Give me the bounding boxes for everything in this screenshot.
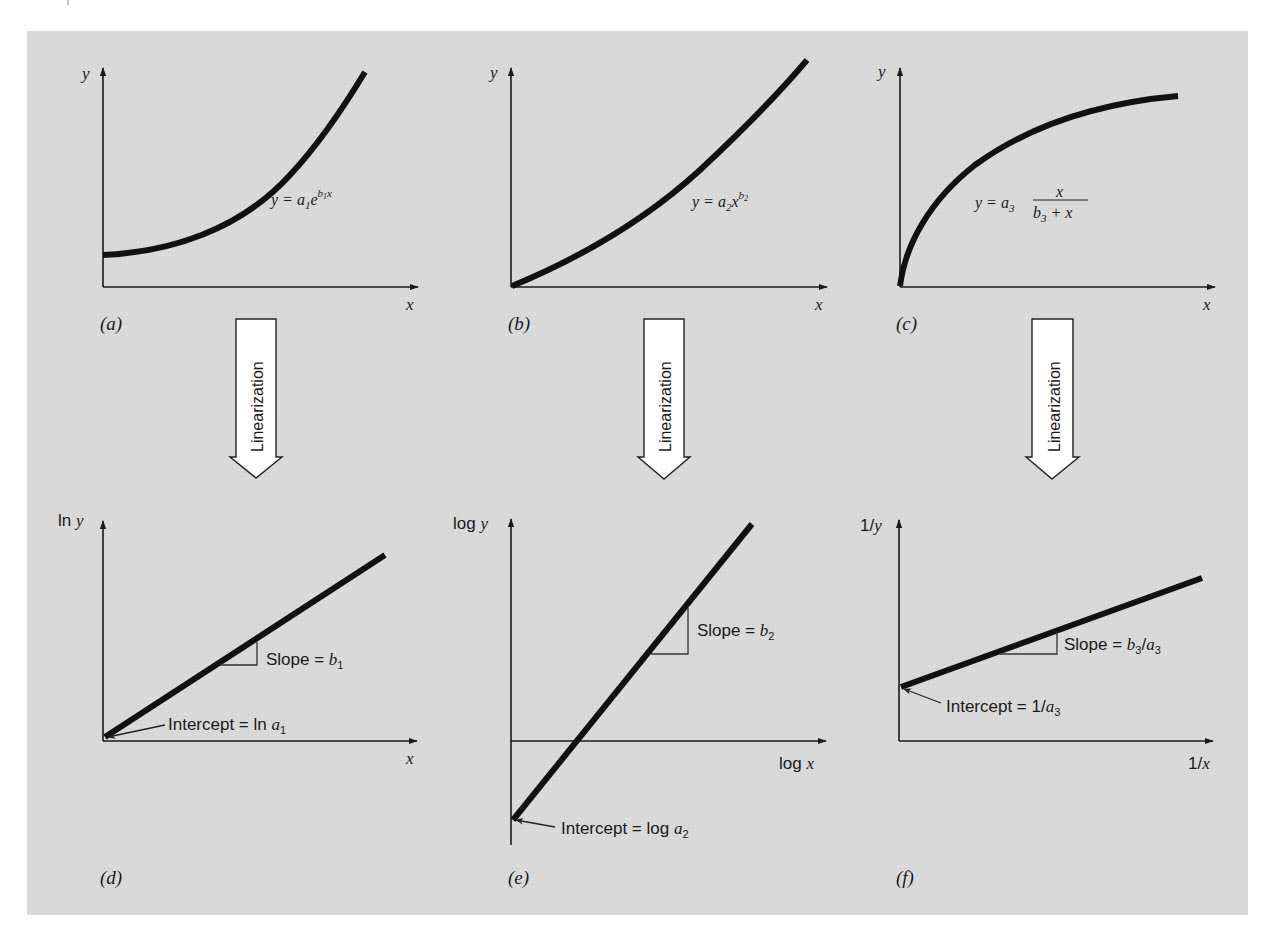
panel-c-equation-numerator: x [1055, 183, 1063, 200]
linearization-figure: y x y = a1eb1x (a) y x y = a2xb2 (b) y x… [0, 0, 1269, 945]
panel-f-intercept-label: Intercept = 1/a3 [946, 697, 1060, 718]
panel-b-x-label: x [814, 295, 823, 314]
panel-e-intercept-label: Intercept = log a2 [561, 819, 689, 840]
panel-a-caption: (a) [100, 313, 122, 335]
panel-b-caption: (b) [508, 313, 530, 335]
linearization-arrow-c-to-f: Linearization [1026, 319, 1079, 479]
panel-d-x-label: x [405, 749, 414, 768]
panel-c-x-label: x [1202, 295, 1211, 314]
linearization-arrow-label: Linearization [657, 361, 674, 452]
panel-e-x-label: log x [779, 754, 814, 773]
panel-e-slope-label: Slope = b2 [697, 621, 774, 642]
linearization-arrow-label: Linearization [249, 361, 266, 452]
panel-d-slope-label: Slope = b1 [266, 650, 343, 671]
panel-e-caption: (e) [508, 867, 529, 889]
panel-d-y-label: ln y [58, 511, 84, 530]
linearization-arrow-b-to-e: Linearization [638, 319, 690, 479]
panel-d-intercept-label: Intercept = ln a1 [168, 715, 286, 736]
panel-c-y-label: y [876, 62, 886, 81]
panel-d-caption: (d) [100, 867, 122, 889]
figure-panel-background [27, 31, 1248, 915]
panel-a-y-label: y [80, 64, 90, 83]
panel-f-y-label: 1/y [860, 516, 882, 535]
panel-c-caption: (c) [896, 313, 917, 335]
panel-a-x-label: x [405, 295, 414, 314]
linearization-arrow-a-to-d: Linearization [230, 319, 282, 478]
panel-f-x-label: 1/x [1188, 754, 1210, 773]
panel-b-y-label: y [488, 63, 498, 82]
panel-f-caption: (f) [896, 867, 914, 889]
panel-e-y-label: log y [453, 514, 488, 533]
panel-f-slope-label: Slope = b3/a3 [1064, 635, 1161, 656]
linearization-arrow-label: Linearization [1046, 361, 1063, 452]
